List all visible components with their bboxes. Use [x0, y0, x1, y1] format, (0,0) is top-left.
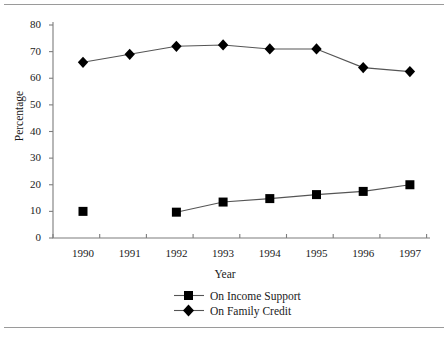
data-point-diamond	[265, 43, 275, 54]
y-axis-tick-label: 80	[15, 18, 41, 30]
data-point-square	[312, 190, 321, 199]
x-axis-tick-label: 1994	[247, 247, 293, 259]
y-axis-tick-label: 0	[15, 231, 41, 243]
axes-group	[49, 22, 430, 238]
data-point-diamond	[311, 43, 321, 54]
y-axis-tick-label: 70	[15, 45, 41, 57]
series-group	[78, 39, 415, 216]
data-point-square	[79, 207, 88, 216]
data-point-diamond	[218, 39, 228, 50]
legend-key-square-icon	[172, 288, 206, 303]
legend-key-diamond-icon	[172, 303, 206, 318]
x-axis-tick-label: 1991	[107, 247, 153, 259]
legend-item-label: On Income Support	[206, 290, 301, 302]
data-point-square	[359, 187, 368, 196]
data-point-diamond	[171, 41, 181, 52]
x-axis-tick-label: 1990	[60, 247, 106, 259]
data-point-square	[265, 194, 274, 203]
legend-item: On Income Support	[172, 288, 382, 303]
chart-figure: 01020304050607080 1990199119921993199419…	[0, 0, 448, 340]
data-point-diamond	[78, 57, 88, 68]
x-axis-ticks	[53, 234, 427, 238]
y-axis-tick-label: 20	[15, 178, 41, 190]
x-axis-tick-label: 1992	[153, 247, 199, 259]
data-point-diamond	[125, 49, 135, 60]
x-axis-tick-label: 1995	[294, 247, 340, 259]
x-axis-tick-label: 1996	[340, 247, 386, 259]
axis-lines	[53, 22, 430, 238]
chart-legend: On Income Support On Family Credit	[172, 288, 382, 318]
legend-item: On Family Credit	[172, 303, 382, 318]
data-point-square	[172, 208, 181, 217]
data-point-diamond	[358, 62, 368, 73]
y-axis-title: Percentage	[13, 71, 25, 161]
x-axis-tick-label: 1997	[387, 247, 433, 259]
y-axis-ticks	[49, 25, 53, 238]
x-axis-tick-label: 1993	[200, 247, 246, 259]
y-axis-tick-label: 10	[15, 204, 41, 216]
legend-item-label: On Family Credit	[206, 305, 291, 317]
x-axis-title: Year	[180, 268, 270, 280]
data-point-square	[219, 198, 228, 207]
data-point-diamond	[405, 66, 415, 77]
series-line	[176, 185, 410, 212]
data-point-square	[405, 180, 414, 189]
